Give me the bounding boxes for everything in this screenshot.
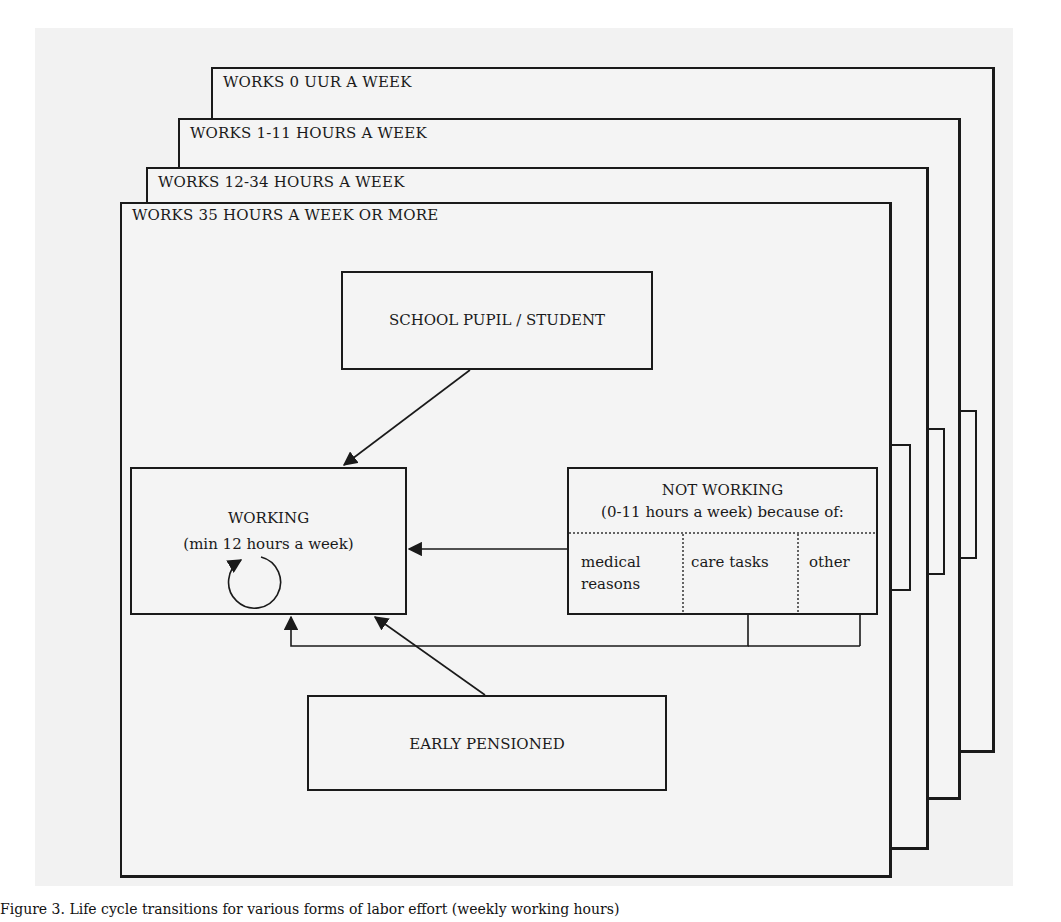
diagram-connectors	[0, 0, 1061, 922]
not-working-dividers	[569, 533, 876, 613]
arrow-early-pensioned-to-working	[375, 617, 485, 695]
self-loop-working	[229, 557, 281, 608]
arrow-school-to-working	[344, 370, 470, 465]
figure-caption: Figure 3. Life cycle transitions for var…	[0, 901, 619, 917]
arrow-reasons-to-working	[291, 614, 748, 646]
